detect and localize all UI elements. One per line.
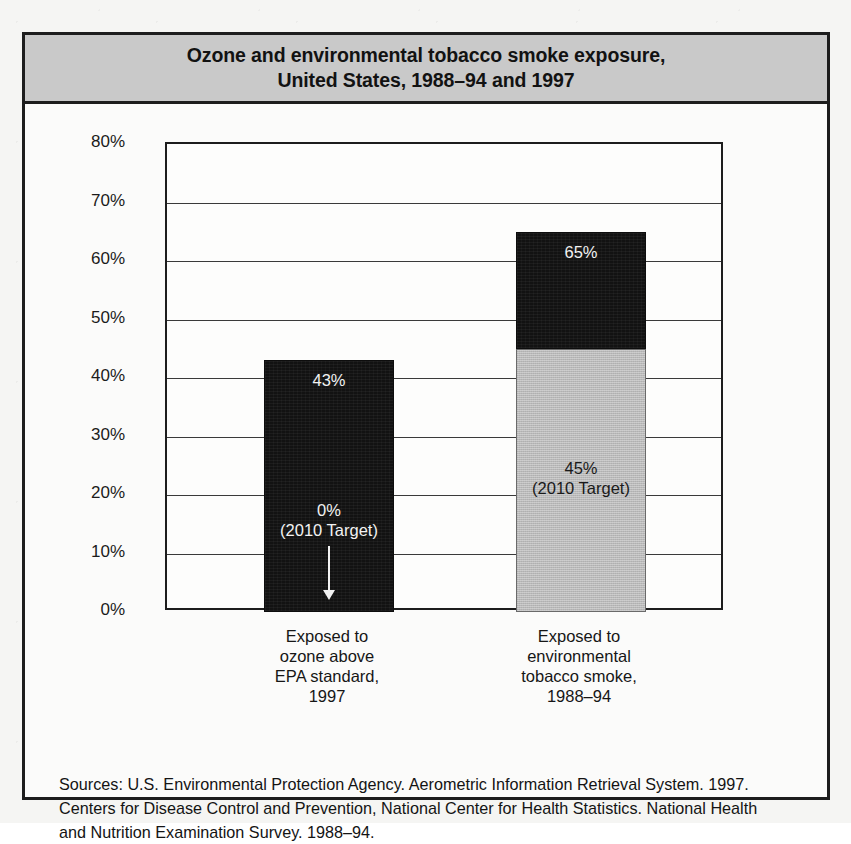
y-tick-label-20: 20% bbox=[5, 483, 125, 503]
bar-2-total-label: 65% bbox=[516, 242, 646, 262]
sources-line-3: and Nutrition Examination Survey. 1988–9… bbox=[59, 820, 801, 844]
category-label-2: Exposed toenvironmentaltobacco smoke,198… bbox=[469, 626, 689, 706]
category-label-2-line-4: 1988–94 bbox=[469, 686, 689, 706]
bar-2[interactable]: 45%(2010 Target)65% bbox=[516, 232, 646, 612]
category-label-2-line-1: Exposed to bbox=[469, 626, 689, 646]
category-label-1-line-3: EPA standard, bbox=[217, 666, 437, 686]
bar-1-target-value: 0% bbox=[264, 500, 394, 520]
plot-area: 43%0%(2010 Target)45%(2010 Target)65% bbox=[165, 142, 723, 610]
gridline-70 bbox=[167, 203, 721, 204]
y-tick-label-80: 80% bbox=[5, 132, 125, 152]
bar-2-target-value: 45% bbox=[516, 458, 646, 478]
arrow-shaft bbox=[328, 546, 330, 592]
bar-1-total-label: 43% bbox=[264, 370, 394, 390]
y-tick-label-30: 30% bbox=[5, 425, 125, 445]
bar-1-target-callout: 0%(2010 Target) bbox=[264, 500, 394, 540]
y-tick-label-60: 60% bbox=[5, 249, 125, 269]
chart-region: 0%10%20%30%40%50%60%70%80% 43%0%(2010 Ta… bbox=[25, 104, 827, 797]
category-label-1: Exposed toozone aboveEPA standard,1997 bbox=[217, 626, 437, 706]
figure-frame: Ozone and environmental tobacco smoke ex… bbox=[22, 32, 830, 800]
category-label-1-line-4: 1997 bbox=[217, 686, 437, 706]
y-tick-label-10: 10% bbox=[5, 542, 125, 562]
category-label-2-line-2: environmental bbox=[469, 646, 689, 666]
y-tick-label-0: 0% bbox=[5, 600, 125, 620]
chart-title-line-2: United States, 1988–94 and 1997 bbox=[277, 68, 574, 93]
arrow-head bbox=[323, 590, 335, 600]
y-tick-label-70: 70% bbox=[5, 191, 125, 211]
chart-title-line-1: Ozone and environmental tobacco smoke ex… bbox=[187, 43, 666, 68]
category-label-1-line-2: ozone above bbox=[217, 646, 437, 666]
y-tick-label-40: 40% bbox=[5, 366, 125, 386]
bar-1[interactable]: 43%0%(2010 Target) bbox=[264, 360, 394, 612]
y-tick-label-50: 50% bbox=[5, 308, 125, 328]
sources-line-1: Sources: U.S. Environmental Protection A… bbox=[59, 772, 801, 796]
bar-2-target-note: (2010 Target) bbox=[516, 478, 646, 498]
category-label-2-line-3: tobacco smoke, bbox=[469, 666, 689, 686]
bar-1-target-arrow-icon bbox=[322, 546, 336, 602]
category-label-1-line-1: Exposed to bbox=[217, 626, 437, 646]
sources-note: Sources: U.S. Environmental Protection A… bbox=[59, 772, 801, 844]
bar-2-target-label: 45%(2010 Target) bbox=[516, 458, 646, 498]
sources-line-2: Centers for Disease Control and Preventi… bbox=[59, 796, 801, 820]
bar-1-target-note: (2010 Target) bbox=[264, 520, 394, 540]
chart-title-band: Ozone and environmental tobacco smoke ex… bbox=[25, 35, 827, 104]
